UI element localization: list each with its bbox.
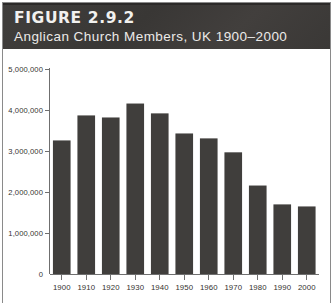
y-axis-tick-labels: 01,000,0002,000,0003,000,0004,000,0005,0… [8, 65, 43, 279]
x-axis-tick-label: 1950 [175, 283, 193, 292]
x-axis-tick-label: 1910 [77, 283, 95, 292]
bar [200, 138, 218, 274]
y-axis-tick-label: 1,000,000 [8, 229, 43, 238]
bar [175, 133, 193, 274]
figure-number-label: FIGURE 2.9.2 [14, 9, 330, 28]
header-top-rule [3, 3, 330, 5]
y-axis-tick-label: 5,000,000 [8, 65, 43, 74]
x-axis-tick-label: 2000 [298, 283, 316, 292]
y-axis-tick-label: 2,000,000 [8, 188, 43, 197]
bar [249, 186, 267, 275]
x-axis-tick-label: 1940 [151, 283, 169, 292]
x-axis-tick-label: 1970 [224, 283, 242, 292]
bar [224, 152, 242, 274]
bar [151, 113, 169, 274]
x-axis-tick-label: 1990 [273, 283, 291, 292]
y-axis-tick-label: 3,000,000 [8, 147, 43, 156]
plot-area: 01,000,0002,000,0003,000,0004,000,0005,0… [3, 49, 330, 303]
bar [298, 206, 316, 274]
y-axis-tick-marks [45, 70, 50, 234]
x-axis-tick-label: 1980 [249, 283, 267, 292]
x-axis-tick-label: 1900 [53, 283, 71, 292]
y-axis-tick-label: 0 [39, 270, 43, 279]
bar-chart: 01,000,0002,000,0003,000,0004,000,0005,0… [3, 49, 330, 303]
figure-container: FIGURE 2.9.2 Anglican Church Members, UK… [0, 0, 333, 306]
bar [53, 140, 71, 274]
x-axis-tick-labels: 1900191019201930194019501960197019801990… [53, 283, 316, 292]
bar [77, 115, 95, 274]
x-axis-tick-label: 1930 [126, 283, 144, 292]
bar [273, 204, 291, 274]
bar [102, 117, 120, 274]
x-axis-tick-label: 1920 [102, 283, 120, 292]
bar-series [53, 104, 316, 275]
figure-subtitle: Anglican Church Members, UK 1900–2000 [14, 28, 330, 45]
y-axis-tick-label: 4,000,000 [8, 106, 43, 115]
figure-header-band: FIGURE 2.9.2 Anglican Church Members, UK… [3, 3, 330, 49]
bar [126, 104, 144, 275]
x-axis-tick-marks [62, 275, 307, 280]
x-axis-tick-label: 1960 [200, 283, 218, 292]
